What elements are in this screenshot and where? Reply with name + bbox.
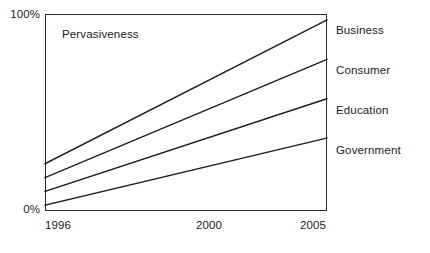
pervasiveness-line-chart: 100% 0% Pervasiveness 1996 2000 2005 Bus… (0, 0, 430, 253)
y-axis-tick-100: 100% (0, 8, 40, 20)
series-line-government (45, 138, 327, 205)
series-line-consumer (45, 59, 327, 177)
series-label-education: Education (336, 104, 389, 116)
series-line-business (45, 20, 327, 164)
y-axis-tick-0: 0% (0, 203, 40, 215)
series-label-business: Business (336, 24, 384, 36)
series-label-government: Government (336, 144, 401, 156)
x-axis-tick-1996: 1996 (45, 219, 71, 231)
x-axis-tick-2005: 2005 (300, 219, 326, 231)
series-label-consumer: Consumer (336, 64, 390, 76)
x-axis-tick-2000: 2000 (196, 219, 222, 231)
series-line-education (45, 99, 327, 192)
series-lines-layer (45, 14, 327, 211)
